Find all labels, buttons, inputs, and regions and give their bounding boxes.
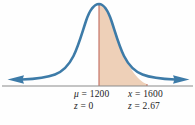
left-arrowhead <box>8 75 25 83</box>
x-label-line2: z = 2.67 <box>128 101 163 113</box>
z-value-x: = 2.67 <box>132 101 160 111</box>
x-value: = 1600 <box>132 89 163 99</box>
mu-value: = 1200 <box>79 89 110 99</box>
x-label: x = 1600 z = 2.67 <box>128 89 163 112</box>
mean-label-line1: μ = 1200 <box>74 89 109 101</box>
normal-distribution-figure: μ = 1200 z = 0 x = 1600 z = 2.67 <box>0 0 195 125</box>
right-arrowhead <box>173 75 190 83</box>
mean-label-line2: z = 0 <box>74 101 109 113</box>
z-value-mean: = 0 <box>78 101 94 111</box>
x-label-line1: x = 1600 <box>128 89 163 101</box>
mean-label: μ = 1200 z = 0 <box>74 89 109 112</box>
